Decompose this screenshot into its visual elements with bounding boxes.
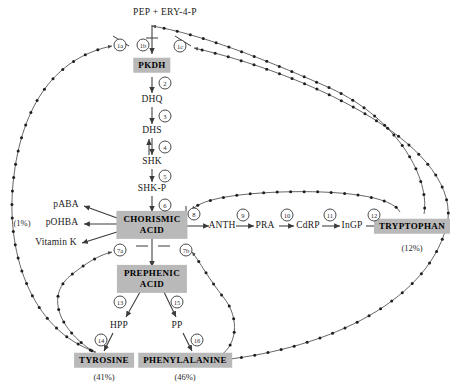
feedback-bead — [330, 191, 333, 194]
feedback-bead — [331, 332, 334, 335]
feedback-bead — [441, 238, 444, 241]
feedback-bead — [397, 135, 400, 138]
node-chor-line1: CHORISMIC — [123, 214, 180, 225]
feedback-bead — [435, 250, 438, 253]
feedback-bead — [327, 86, 330, 89]
feedback-bead — [276, 191, 279, 194]
feedback-bead — [414, 167, 417, 170]
feedback-bead — [392, 133, 395, 136]
node-preph: PREPHENICACID — [117, 265, 187, 293]
feedback-bead — [24, 124, 27, 127]
feedback-bead — [373, 115, 376, 118]
feedback-bead — [340, 92, 343, 95]
feedback-bead — [93, 257, 96, 260]
feedback-bead — [318, 337, 321, 340]
feedback-bead — [265, 68, 268, 71]
node-hpp: HPP — [110, 321, 128, 331]
feedback-bead — [315, 81, 318, 84]
pathway-diagram: PKDHDHQDHSSHKSHK-PCHORISMICACIDANTHPRACd… — [0, 0, 457, 391]
feedback-bead — [214, 52, 217, 55]
node-paba: pABA — [53, 200, 79, 210]
feedback-bead — [253, 55, 256, 58]
reaction-2: 2 — [159, 77, 172, 90]
feedback-bead — [163, 27, 166, 30]
reaction-9: 9 — [237, 209, 250, 222]
feedback-bead — [14, 243, 17, 246]
node-pra: PRA — [255, 221, 274, 231]
feedback-bead — [228, 305, 231, 308]
feedback-bead — [233, 331, 236, 334]
substrate-label: PEP + ERY-4-P — [133, 8, 197, 18]
feedback-bead — [434, 174, 437, 177]
feedback-bead — [375, 119, 378, 122]
feedback-bead — [227, 55, 230, 58]
feedback-bead — [390, 300, 393, 303]
feedback-bead — [441, 185, 444, 188]
feedback-bead — [71, 273, 74, 276]
feedback-bead — [262, 191, 265, 194]
feedback-bead — [57, 295, 60, 298]
feedback-bead — [29, 111, 32, 114]
feedback-bead — [368, 314, 371, 317]
node-anth: ANTH — [208, 221, 235, 231]
node-shkp: SHK-P — [138, 184, 166, 194]
feedback-bead — [363, 112, 366, 115]
yield-tyr: (41%) — [93, 373, 114, 382]
reaction-10: 10 — [281, 209, 294, 222]
feedback-bead — [278, 65, 281, 68]
feedback-bead — [291, 77, 294, 80]
reaction-7b: 7b — [180, 244, 193, 257]
feedback-bead — [426, 163, 429, 166]
feedback-bead — [189, 33, 192, 36]
feedback-bead — [383, 200, 386, 203]
feedback-bead — [61, 282, 64, 285]
feedback-bead — [386, 127, 389, 130]
feedback-bead — [57, 308, 60, 311]
feedback-bead — [232, 317, 235, 320]
node-pohba: pOHBA — [46, 218, 79, 228]
reaction-1c: 1c — [174, 40, 187, 53]
feedback-bead — [253, 354, 256, 357]
feedback-bead — [212, 283, 215, 286]
feedback-bead — [11, 189, 14, 192]
feedback-bead — [351, 99, 354, 102]
reaction-11: 11 — [324, 209, 337, 222]
feedback-bead — [423, 206, 426, 209]
feedback-bead — [289, 190, 292, 193]
feedback-bead — [303, 82, 306, 85]
yield-phe: (46%) — [174, 373, 195, 382]
feedback-bead — [220, 293, 223, 296]
feedback-bead — [65, 335, 68, 338]
feedback-bead — [227, 46, 230, 49]
node-pp: PP — [172, 321, 183, 331]
feedback-bead — [240, 356, 243, 359]
feedback-bead — [293, 345, 296, 348]
feedback-bead — [422, 193, 425, 196]
feedback-bead — [401, 291, 404, 294]
reaction-6: 6 — [159, 199, 172, 212]
feedback-bead — [38, 306, 41, 309]
node-tyr: TYROSINE — [74, 353, 134, 368]
reaction-1b: 1b — [137, 39, 150, 52]
reaction-7a: 7a — [114, 244, 127, 257]
feedback-bead — [201, 48, 204, 51]
feedback-bead — [82, 265, 85, 268]
feedback-bead — [229, 343, 232, 346]
reaction-15: 15 — [171, 296, 184, 309]
feedback-bead — [417, 153, 420, 156]
feedback-bead — [209, 199, 212, 202]
feedback-bead — [55, 327, 58, 330]
feedback-bead — [363, 106, 366, 109]
feedback-bead — [445, 198, 448, 201]
feedback-bead — [379, 307, 382, 310]
node-vitk: Vitamin K — [35, 238, 77, 248]
feedback-bead — [447, 212, 450, 215]
feedback-bead — [62, 321, 65, 324]
feedback-bead — [265, 60, 268, 63]
reaction-12: 12 — [368, 209, 381, 222]
feedback-bead — [70, 331, 73, 334]
feedback-bead — [411, 282, 414, 285]
reaction-16: 16 — [191, 334, 204, 347]
feedback-bead — [278, 72, 281, 75]
reaction-14: 14 — [95, 334, 108, 347]
